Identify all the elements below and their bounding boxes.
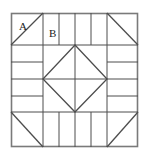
piece-label-b: B — [49, 27, 56, 39]
quilt-block-figure: A B — [0, 0, 147, 155]
piece-label-a: A — [19, 20, 27, 32]
quilt-block-diagram: A B — [0, 0, 147, 155]
